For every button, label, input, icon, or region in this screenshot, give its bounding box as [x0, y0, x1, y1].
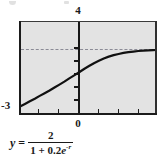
plot-panel: [19, 21, 157, 115]
equation-fraction: 2 1 + 0.2e-r: [28, 130, 73, 156]
panel-frame-right: [155, 21, 157, 115]
logistic-graph-figure: 4 -3 0 y = 2 1 + 0.2e-r: [0, 0, 164, 160]
equation-denominator-prefix: 1 + 0.2: [30, 144, 61, 156]
y-min-label: -3: [1, 99, 10, 111]
panel-frame-bottom: [19, 113, 157, 115]
equation-equals: =: [18, 137, 25, 149]
clipped-glyph-right: [64, 1, 69, 4]
equation-denominator-exponent: -r: [66, 143, 71, 151]
x-origin-label: 0: [70, 117, 86, 129]
panel-frame-top: [19, 21, 157, 22]
equation: y = 2 1 + 0.2e-r: [10, 130, 73, 156]
logistic-curve: [20, 22, 157, 115]
panel-frame-left: [19, 21, 21, 115]
equation-numerator: 2: [45, 130, 57, 142]
y-max-label: 4: [70, 4, 86, 16]
equation-lhs: y: [10, 137, 15, 149]
equation-denominator: 1 + 0.2e-r: [28, 143, 73, 156]
clipped-glyph-left: [9, 1, 16, 5]
